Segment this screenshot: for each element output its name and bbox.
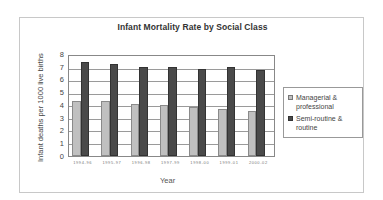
x-tick-label: 1996-98: [126, 160, 156, 165]
legend-label: professional: [296, 103, 334, 110]
legend-label: Managerial &: [296, 94, 337, 101]
legend-swatch-dark: [288, 116, 293, 121]
chart-title: Infant Mortality Rate by Social Class: [20, 22, 365, 32]
y-tick-5: 5: [56, 88, 64, 97]
y-tick-3: 3: [56, 114, 64, 123]
y-tick-0: 0: [56, 152, 64, 161]
legend-label: Semi-routine &: [296, 115, 342, 122]
bar-managerial-1999-01: [218, 109, 227, 157]
x-tick-label: 1997-99: [156, 160, 186, 165]
y-tick-1: 1: [56, 139, 64, 148]
y-axis-label: Infant deaths per 1000 live births: [36, 52, 45, 162]
bar-managerial-2000-02: [248, 111, 257, 156]
x-tick-label: 1999-01: [214, 160, 244, 165]
legend-swatch-light: [288, 95, 293, 100]
x-tick-label: 2000-02: [243, 160, 273, 165]
x-tick-label: 1998-00: [185, 160, 215, 165]
bar-managerial-1997-99: [160, 105, 169, 156]
bar-managerial-1995-97: [101, 101, 110, 156]
bar-managerial-1996-98: [131, 104, 140, 157]
y-tick-2: 2: [56, 126, 64, 135]
bar-semi-routine-2000-02: [256, 70, 265, 156]
bar-managerial-1994-96: [72, 101, 81, 156]
bar-semi-routine-1994-96: [81, 62, 90, 156]
bar-managerial-1998-00: [189, 107, 198, 156]
x-tick-label: 1994-96: [68, 160, 98, 165]
plot-area: [68, 55, 275, 157]
chart-frame: Infant Mortality Rate by Social Class In…: [19, 17, 364, 193]
y-tick-4: 4: [56, 101, 64, 110]
bar-semi-routine-1997-99: [168, 67, 177, 156]
bar-semi-routine-1999-01: [227, 67, 236, 156]
y-tick-6: 6: [56, 75, 64, 84]
bar-semi-routine-1998-00: [198, 69, 207, 157]
bar-semi-routine-1996-98: [139, 67, 148, 156]
legend: Managerial & professional Semi-routine &…: [283, 87, 363, 138]
y-tick-8: 8: [56, 50, 64, 59]
x-tick-label: 1995-97: [97, 160, 127, 165]
x-axis-label: Year: [160, 176, 175, 185]
legend-label: routine: [296, 124, 317, 131]
y-tick-7: 7: [56, 63, 64, 72]
bar-semi-routine-1995-97: [110, 64, 119, 157]
